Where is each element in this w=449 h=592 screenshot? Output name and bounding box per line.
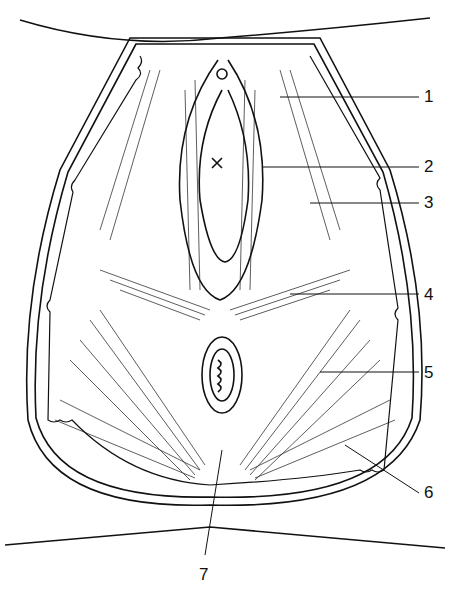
anatomy-drawing (0, 0, 449, 592)
label-5: 5 (424, 364, 433, 381)
label-7: 7 (199, 566, 208, 583)
label-2: 2 (424, 158, 433, 175)
label-1: 1 (424, 88, 433, 105)
label-3: 3 (424, 194, 433, 211)
label-6: 6 (424, 484, 433, 501)
label-4: 4 (424, 286, 433, 303)
